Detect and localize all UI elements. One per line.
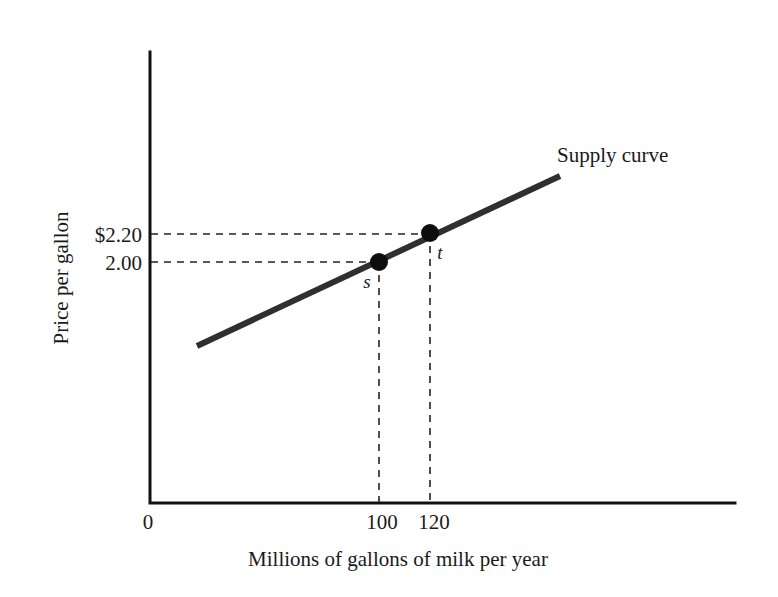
point-label-s: s: [363, 271, 370, 292]
y-tick-label-200: 2.00: [105, 251, 142, 275]
chart-axes: [150, 52, 735, 503]
supply-curve-chart: s t Supply curve $2.20 2.00 0 100 120 Mi…: [0, 0, 778, 597]
data-point-t: [421, 224, 439, 242]
x-tick-label-100: 100: [366, 510, 398, 534]
x-axis-title: Millions of gallons of milk per year: [248, 547, 548, 571]
point-label-t: t: [437, 242, 443, 263]
data-point-s: [370, 253, 388, 271]
x-tick-label-120: 120: [418, 510, 450, 534]
y-axis-title: Price per gallon: [49, 211, 73, 344]
y-tick-label-220: $2.20: [95, 223, 142, 247]
supply-curve-figure: s t Supply curve $2.20 2.00 0 100 120 Mi…: [0, 0, 778, 597]
supply-curve-label: Supply curve: [557, 143, 668, 167]
origin-label: 0: [143, 510, 154, 534]
